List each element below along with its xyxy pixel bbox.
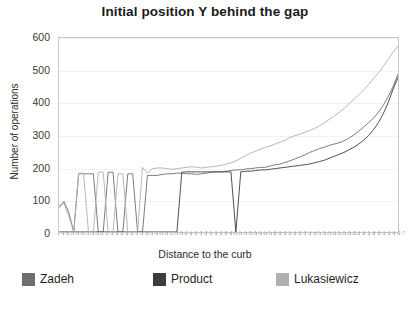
- legend-item-zadeh[interactable]: Zadeh: [22, 272, 74, 286]
- y-tick-label: 300: [32, 129, 50, 141]
- plot-area: [58, 37, 399, 233]
- legend-swatch-icon: [22, 273, 35, 286]
- series-line-zadeh: [59, 74, 398, 232]
- legend-label: Zadeh: [40, 272, 74, 286]
- x-axis-title: Distance to the curb: [0, 248, 410, 260]
- y-tick-label: 100: [32, 194, 50, 206]
- y-tick-label: 400: [32, 96, 50, 108]
- chart-page: Initial position Y behind the gap Number…: [0, 0, 410, 311]
- legend-item-lukasiewicz[interactable]: Lukasiewicz: [276, 272, 359, 286]
- y-tick-label: 200: [32, 162, 50, 174]
- y-tick-label: 600: [32, 31, 50, 43]
- series-line-product: [59, 77, 398, 232]
- series-lines: [59, 38, 398, 232]
- legend-swatch-icon: [276, 273, 289, 286]
- x-axis: 0.50.60.70.80.91.01.11.21.31.41.51.61.71…: [58, 233, 399, 248]
- legend-item-product[interactable]: Product: [153, 272, 212, 286]
- y-axis-title: Number of operations: [9, 72, 20, 192]
- y-axis: Number of operations 0100200300400500600: [0, 30, 56, 240]
- y-tick-label: 0: [44, 227, 50, 239]
- legend-label: Lukasiewicz: [294, 272, 359, 286]
- x-tick-label: 7.4: [401, 230, 407, 236]
- chart-legend: ZadehProductLukasiewicz: [0, 272, 410, 294]
- chart-title: Initial position Y behind the gap: [0, 4, 410, 19]
- y-tick-label: 500: [32, 64, 50, 76]
- legend-swatch-icon: [153, 273, 166, 286]
- legend-label: Product: [171, 272, 212, 286]
